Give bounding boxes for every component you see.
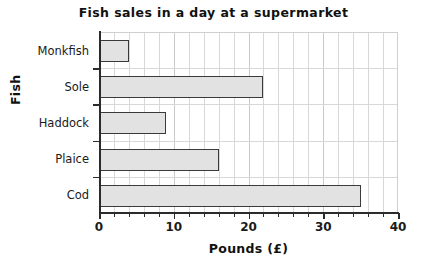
bar-plaice: [99, 149, 219, 171]
x-minor-tick: [263, 213, 264, 217]
x-tick-label: 30: [315, 220, 332, 234]
x-minor-tick: [353, 213, 354, 217]
x-tick-label: 0: [95, 220, 103, 234]
x-minor-tick: [383, 213, 384, 217]
x-minor-tick: [114, 213, 115, 217]
chart-title: Fish sales in a day at a supermarket: [0, 5, 427, 20]
x-minor-tick: [308, 213, 309, 217]
gridline-horizontal: [99, 177, 398, 178]
y-tick-label-monkfish: Monkfish: [38, 44, 89, 58]
y-axis-line: [99, 31, 101, 214]
gridline-vertical: [383, 32, 384, 213]
bar-haddock: [99, 112, 166, 134]
x-tick-label: 20: [240, 220, 257, 234]
bar-chart: Fish sales in a day at a supermarket: [0, 0, 427, 269]
x-major-tick: [323, 213, 325, 219]
x-minor-tick: [144, 213, 145, 217]
x-axis-title: Pounds (£): [99, 241, 398, 256]
y-axis-title: Fish: [8, 75, 23, 105]
x-major-tick: [174, 213, 176, 219]
y-tick: [93, 177, 99, 179]
x-minor-tick: [338, 213, 339, 217]
x-minor-tick: [189, 213, 190, 217]
y-tick-label-plaice: Plaice: [55, 152, 89, 166]
y-tick: [93, 141, 99, 143]
x-minor-tick: [234, 213, 235, 217]
plot-frame-right: [397, 32, 398, 213]
gridline-horizontal: [99, 141, 398, 142]
bar-monkfish: [99, 40, 129, 62]
plot-area: [99, 32, 398, 213]
x-minor-tick: [278, 213, 279, 217]
x-major-tick: [398, 213, 400, 219]
y-tick-label-haddock: Haddock: [39, 116, 89, 130]
bar-cod: [99, 185, 361, 207]
y-tick: [93, 104, 99, 106]
gridline-vertical: [368, 32, 369, 213]
y-tick-label-cod: Cod: [67, 188, 89, 202]
x-tick-label: 10: [165, 220, 182, 234]
x-major-tick: [99, 213, 101, 219]
x-minor-tick: [129, 213, 130, 217]
x-tick-label: 40: [390, 220, 407, 234]
x-major-tick: [249, 213, 251, 219]
y-tick: [93, 68, 99, 70]
bar-sole: [99, 76, 263, 98]
x-minor-tick: [204, 213, 205, 217]
y-tick-label-sole: Sole: [64, 80, 89, 94]
plot-frame-top: [99, 32, 398, 33]
gridline-horizontal: [99, 104, 398, 105]
gridline-horizontal: [99, 68, 398, 69]
x-minor-tick: [368, 213, 369, 217]
x-minor-tick: [159, 213, 160, 217]
x-minor-tick: [219, 213, 220, 217]
x-minor-tick: [293, 213, 294, 217]
